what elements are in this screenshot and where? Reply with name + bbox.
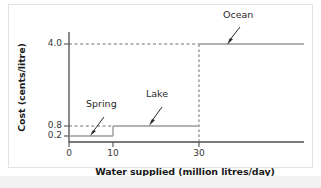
- annotation-label-lake: Lake: [146, 88, 168, 99]
- annotation-label-ocean: Ocean: [223, 9, 253, 20]
- annotation-arrow-ocean: [227, 27, 240, 45]
- x-tick-label-0: 0: [57, 148, 81, 158]
- annotation-arrow-lake: [149, 107, 162, 126]
- y-axis-title: Cost (cents/litre): [16, 28, 27, 148]
- y-tick-label-4.0: 4.0: [32, 38, 62, 48]
- y-tick-label-0.8: 0.8: [32, 120, 62, 130]
- x-tick-label-10: 10: [101, 148, 125, 158]
- annotation-label-spring: Spring: [86, 98, 117, 109]
- chart-figure: 4.0 0.8 0.2 0 10 30 Spring Lake Ocean Wa…: [0, 0, 321, 188]
- bottom-band: [0, 176, 321, 188]
- x-tick-label-30: 30: [187, 148, 211, 158]
- y-tick-label-0.2: 0.2: [32, 130, 62, 140]
